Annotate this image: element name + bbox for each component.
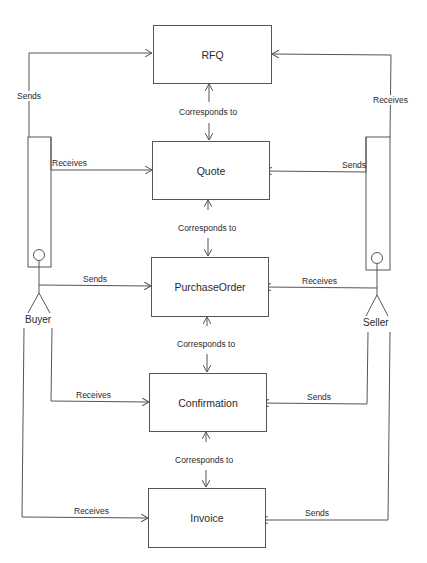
edge-label-buyer-po: Sends xyxy=(83,274,107,284)
correspondence-label: Corresponds to xyxy=(179,107,237,117)
seller-head-icon xyxy=(372,253,383,264)
edge-label-buyer-quote: Receives xyxy=(52,158,87,168)
edge-label-seller-invoice: Sends xyxy=(305,508,329,518)
edge-label-seller-quote: Sends xyxy=(342,160,366,170)
document-purchase-order-label: PurchaseOrder xyxy=(174,281,245,293)
buyer-head-icon xyxy=(34,250,45,261)
document-invoice[interactable]: Invoice xyxy=(148,488,266,548)
edge-buyer-sends-po xyxy=(39,285,151,286)
document-quote-label: Quote xyxy=(197,165,226,177)
document-invoice-label: Invoice xyxy=(190,512,223,524)
document-quote[interactable]: Quote xyxy=(152,141,270,200)
edge-seller-sends-invoice xyxy=(261,332,390,520)
actor-seller-label: Seller xyxy=(363,317,389,328)
edge-label-buyer-invoice: Receives xyxy=(74,506,109,516)
edge-label-seller-confirmation: Sends xyxy=(307,392,331,402)
document-confirmation[interactable]: Confirmation xyxy=(149,373,267,432)
edge-label-buyer-rfq: Sends xyxy=(17,91,41,101)
document-confirmation-label: Confirmation xyxy=(178,397,238,409)
buyer-frame xyxy=(28,137,51,267)
edge-label-seller-rfq: Receives xyxy=(373,95,408,105)
edge-seller-receives-po xyxy=(264,287,377,288)
diagram-canvas: RFQ Quote PurchaseOrder Confirmation Inv… xyxy=(0,0,427,563)
document-purchase-order[interactable]: PurchaseOrder xyxy=(151,257,269,317)
correspondence-label: Corresponds to xyxy=(177,339,235,349)
correspondence-label: Corresponds to xyxy=(178,223,236,233)
document-rfq[interactable]: RFQ xyxy=(153,25,272,84)
edge-label-buyer-confirmation: Receives xyxy=(76,390,111,400)
edge-buyer-sends-rfq xyxy=(29,53,152,137)
correspondence-label: Corresponds to xyxy=(175,455,233,465)
edge-label-seller-po: Receives xyxy=(302,276,337,286)
document-rfq-label: RFQ xyxy=(201,49,223,61)
edge-buyer-receives-invoice xyxy=(22,328,148,518)
actor-buyer-label: Buyer xyxy=(25,314,51,325)
seller-frame xyxy=(366,137,390,270)
